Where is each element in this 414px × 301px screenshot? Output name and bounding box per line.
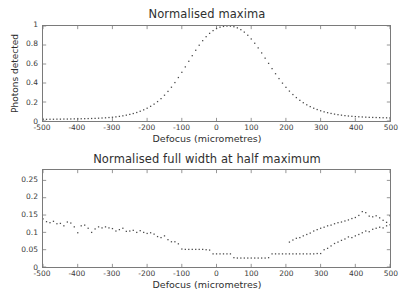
- figure-canvas: Normalised maxima 00.20.40.60.81 -500-40…: [0, 0, 414, 301]
- x-axis-label-top: Defocus (micrometres): [0, 133, 414, 144]
- chart-title-top: Normalised maxima: [0, 7, 414, 21]
- plot-area-normalised-maxima: [42, 25, 391, 122]
- x-tick-label: 400: [339, 123, 373, 132]
- x-axis-label-bottom: Defocus (micrometres): [0, 279, 414, 290]
- y-tick-label: 0.4: [26, 79, 38, 87]
- y-tick-label: 0.1: [26, 229, 38, 237]
- x-tick-label: 300: [304, 123, 338, 132]
- x-tick-label: 500: [374, 123, 408, 132]
- plot-area-normalised-fwhm: [42, 169, 391, 268]
- x-tick-label: -500: [25, 123, 59, 132]
- y-tick-label: 0.2: [26, 99, 38, 107]
- x-tick-label: -400: [60, 269, 94, 278]
- x-tick-label: 100: [234, 123, 268, 132]
- x-tick-label: -500: [25, 269, 59, 278]
- x-tick-label: 200: [269, 269, 303, 278]
- x-tick-label: -100: [165, 123, 199, 132]
- chart-title-bottom: Normalised full width at half maximum: [0, 152, 414, 166]
- x-tick-label: 400: [339, 269, 373, 278]
- x-tick-label: 0: [200, 269, 234, 278]
- x-tick-label: -300: [95, 123, 129, 132]
- x-tick-label: -100: [165, 269, 199, 278]
- x-tick-label: -200: [130, 123, 164, 132]
- y-tick-label: 0.6: [26, 60, 38, 68]
- scatter-series-fwhm: [43, 170, 390, 267]
- x-tick-label: -300: [95, 269, 129, 278]
- x-tick-label: -200: [130, 269, 164, 278]
- y-axis-label-top: Photons detected: [10, 34, 20, 113]
- scatter-series-photons-detected: [43, 26, 390, 121]
- y-tick-label: 0.2: [26, 193, 38, 201]
- y-tick-label: 1: [33, 21, 38, 29]
- y-axis-ticks-bottom: 00.050.10.150.20.25: [0, 169, 38, 268]
- y-tick-label: 0.05: [21, 246, 38, 254]
- y-tick-label: 0.25: [21, 176, 38, 184]
- x-tick-label: 500: [374, 269, 408, 278]
- x-tick-label: -400: [60, 123, 94, 132]
- x-tick-label: 300: [304, 269, 338, 278]
- x-tick-label: 100: [234, 269, 268, 278]
- x-tick-label: 200: [269, 123, 303, 132]
- y-tick-label: 0.15: [21, 211, 38, 219]
- x-tick-label: 0: [200, 123, 234, 132]
- y-tick-label: 0.8: [26, 40, 38, 48]
